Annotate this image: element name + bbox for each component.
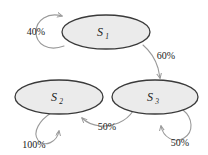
transition-label-s1-s3: 60% (157, 50, 175, 61)
state-subscript-s3: 3 (154, 97, 159, 106)
transition-label-s1-self: 40% (27, 26, 45, 37)
state-subscript-s2: 2 (59, 97, 63, 106)
state-node-s2[interactable]: S 2 (15, 80, 103, 114)
state-node-s3[interactable]: S 3 (112, 80, 198, 114)
state-label-s1: S (97, 25, 103, 39)
state-label-s2: S (51, 90, 57, 104)
transition-label-s2-self: 100% (22, 139, 45, 150)
transition-s3-self (161, 110, 191, 140)
state-node-s1[interactable]: S 1 (62, 15, 150, 49)
state-diagram: S 1 S 2 S 3 40% 60% 50% 50% 100% (0, 0, 208, 155)
transition-label-s3-self: 50% (171, 137, 189, 148)
state-subscript-s1: 1 (105, 32, 109, 41)
state-label-s3: S (147, 90, 153, 104)
transition-label-s3-s2: 50% (98, 121, 116, 132)
diagram-canvas: S 1 S 2 S 3 40% 60% 50% 50% 100% (0, 0, 208, 155)
transition-s3-self-path (161, 110, 191, 140)
